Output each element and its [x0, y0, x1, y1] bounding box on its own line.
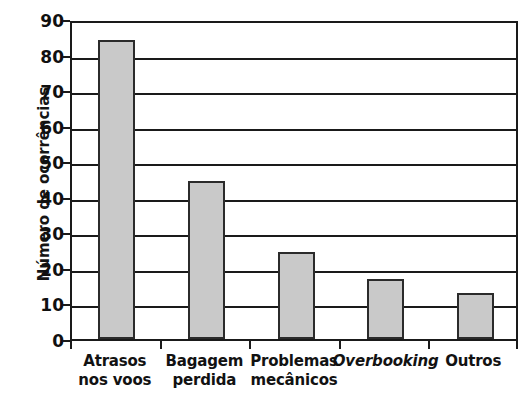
x-category-label: Atrasosnos voos [64, 352, 166, 390]
x-category-label: Overbooking [333, 352, 435, 371]
y-tick-label: 90 [4, 11, 64, 31]
bar [278, 252, 315, 339]
y-tick-label: 0 [4, 331, 64, 351]
y-tick-mark [63, 162, 70, 164]
gridline [72, 200, 516, 202]
x-tick-mark [249, 341, 251, 349]
y-tick-mark [63, 304, 70, 306]
y-tick-label: 20 [4, 260, 64, 280]
y-tick-mark [63, 198, 70, 200]
gridline [72, 93, 516, 95]
y-tick-mark [63, 127, 70, 129]
y-tick-label: 30 [4, 224, 64, 244]
x-tick-mark [70, 341, 72, 349]
x-category-label-line2: mecânicos [243, 371, 345, 390]
x-tick-mark [160, 341, 162, 349]
y-tick-label: 50 [4, 153, 64, 173]
x-category-label-line2: perdida [154, 371, 256, 390]
gridline [72, 235, 516, 237]
plot-area [70, 21, 518, 341]
y-tick-mark [63, 20, 70, 22]
x-category-label: Outros [422, 352, 524, 371]
y-tick-label: 10 [4, 295, 64, 315]
x-category-label-line1: Atrasos [83, 352, 146, 370]
bar [188, 181, 225, 339]
x-tick-mark [516, 341, 518, 349]
y-tick-label: 70 [4, 82, 64, 102]
y-tick-mark [63, 91, 70, 93]
gridline [72, 129, 516, 131]
bar [98, 40, 135, 339]
y-tick-label: 80 [4, 47, 64, 67]
y-tick-label: 40 [4, 189, 64, 209]
x-tick-mark [428, 341, 430, 349]
x-category-label-line1: Bagagem [166, 352, 244, 370]
y-tick-mark [63, 340, 70, 342]
x-category-label: Bagagemperdida [154, 352, 256, 390]
x-category-label-line1: Problemas [250, 352, 338, 370]
y-tick-mark [63, 269, 70, 271]
bar [367, 279, 404, 339]
y-tick-mark [63, 56, 70, 58]
x-category-label: Problemasmecânicos [243, 352, 345, 390]
bar-chart: Número de ocorrências 010203040506070809… [0, 0, 530, 406]
bar [457, 293, 494, 339]
x-tick-mark [339, 341, 341, 349]
y-tick-mark [63, 233, 70, 235]
gridline [72, 164, 516, 166]
gridline [72, 58, 516, 60]
x-category-label-line2: nos voos [64, 371, 166, 390]
x-category-label-line1: Outros [445, 352, 501, 370]
y-tick-label: 60 [4, 118, 64, 138]
